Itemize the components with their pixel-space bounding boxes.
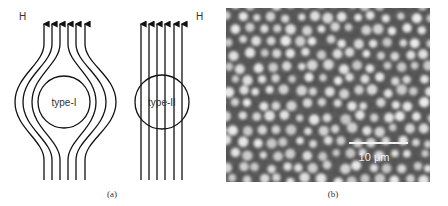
field-line (15, 24, 44, 180)
vortex-micrograph: 10 μm (214, 0, 445, 187)
field-label-h-right: H (196, 11, 203, 22)
type-i-diagram: H type-I (15, 11, 116, 180)
type-ii-diagram: type-II H (135, 11, 203, 180)
caption-b: (b) (328, 189, 339, 199)
field-line (76, 24, 106, 180)
scale-bar-label: 10 μm (359, 151, 390, 163)
type-i-label: type-I (51, 97, 76, 108)
caption-a: (a) (107, 189, 117, 199)
figure: H type-I type-II H (a) 10 μm (b) (0, 0, 448, 206)
field-label-h-left: H (19, 11, 26, 22)
type-ii-label: type-II (148, 97, 176, 108)
